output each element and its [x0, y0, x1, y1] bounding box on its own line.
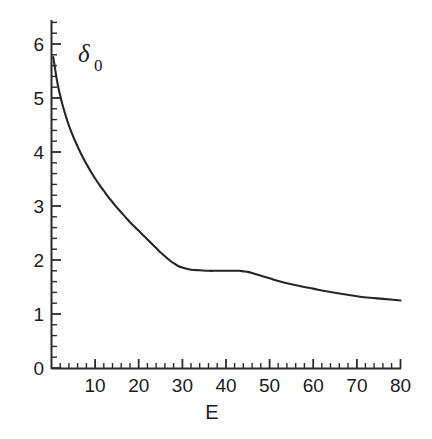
- y-tick-label: 2: [33, 250, 44, 271]
- y-axis-title-symbol: δ: [78, 40, 90, 67]
- x-tick-label: 10: [85, 375, 106, 396]
- x-tick-label: 40: [215, 375, 236, 396]
- x-tick-label: 50: [259, 375, 280, 396]
- x-tick-label: 80: [390, 375, 411, 396]
- y-tick-label: 3: [33, 196, 44, 217]
- x-tick-label: 20: [128, 375, 149, 396]
- y-tick-label: 6: [33, 34, 44, 55]
- line-chart: 0 1 2 3 4 5 6 10 20 30 40 50 60 70 80 E …: [0, 0, 432, 439]
- y-tick-label: 5: [33, 88, 44, 109]
- x-tick-label: 70: [346, 375, 367, 396]
- y-tick-label: 0: [33, 358, 44, 379]
- x-tick-label: 60: [303, 375, 324, 396]
- x-tick-label: 30: [172, 375, 193, 396]
- y-axis-title-subscript: 0: [94, 56, 103, 75]
- chart-background: [0, 0, 432, 439]
- y-tick-label: 1: [33, 304, 44, 325]
- figure-container: 0 1 2 3 4 5 6 10 20 30 40 50 60 70 80 E …: [0, 0, 432, 439]
- x-axis-title: E: [205, 401, 218, 423]
- y-tick-label: 4: [33, 142, 44, 163]
